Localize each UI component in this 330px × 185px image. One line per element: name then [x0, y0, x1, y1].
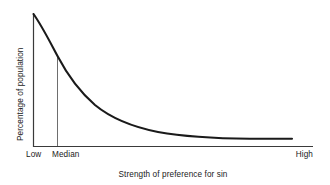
x-tick-label-median: Median: [52, 150, 80, 159]
chart-background: [0, 0, 330, 185]
x-tick-label-high: High: [296, 150, 314, 159]
y-axis-title: Percentage of population: [16, 47, 25, 141]
chart-figure: Percentage of population Low Median High…: [0, 0, 330, 185]
x-tick-label-low: Low: [26, 150, 41, 159]
x-axis-title: Strength of preference for sin: [118, 170, 227, 179]
line-chart: Percentage of population Low Median High…: [0, 0, 330, 185]
